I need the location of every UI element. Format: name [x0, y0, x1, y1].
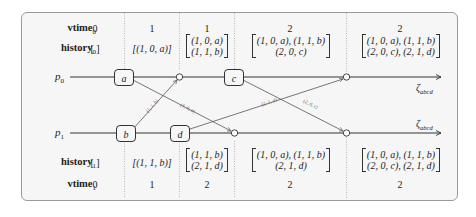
vtime0-col1: 1: [142, 23, 162, 34]
history1-col0: [ ]: [80, 157, 110, 168]
history0-col0: [ ]: [80, 43, 110, 54]
vtime1-col0: 0: [85, 179, 105, 190]
event-node-a: a: [114, 69, 134, 86]
history1-col2: (1, 1, b)(2, 1, d): [180, 148, 234, 172]
history1-col3: (1, 0, a), (1, 1, b)(2, 1, d): [237, 148, 345, 172]
history1-col1: [(1, 1, b)]: [128, 157, 176, 168]
vtime0-col0: 0: [85, 23, 105, 34]
process-p1-label: p1: [55, 126, 64, 141]
history0-col1: [(1, 0, a)]: [128, 43, 176, 54]
end-state-p1-label: ζabcd: [416, 118, 433, 131]
history0-col2: (1, 0, a)(1, 1, b): [180, 34, 234, 58]
vtime0-col4: 2: [390, 23, 410, 34]
vtime0-col2: 1: [197, 23, 217, 34]
event-node-d: d: [170, 125, 190, 142]
vtime0-col3: 2: [280, 23, 300, 34]
message-label-c: (2, 0, c): [302, 98, 319, 111]
vtime1-col4: 2: [390, 179, 410, 190]
process-p0-label: p0: [55, 70, 64, 85]
history1-col4: (1, 0, a), (1, 1, b)(2, 0, c), (2, 1, d): [348, 148, 454, 172]
end-state-p0-label: ζabcd: [416, 82, 433, 95]
message-label-d: (2, 1, d): [261, 97, 278, 108]
vtime1-col3: 2: [280, 179, 300, 190]
vtime1-col2: 2: [197, 179, 217, 190]
history0-col4: (1, 0, a), (1, 1, b)(2, 0, c), (2, 1, d): [348, 34, 454, 58]
vtime1-col1: 1: [142, 179, 162, 190]
event-node-c: c: [224, 69, 244, 86]
event-node-b: b: [116, 125, 136, 142]
message-label-a: (1, 0, a): [179, 102, 196, 115]
message-label-b: (1, 1, b): [145, 98, 160, 114]
history0-col3: (1, 0, a), (1, 1, b)(2, 0, c): [237, 34, 345, 58]
